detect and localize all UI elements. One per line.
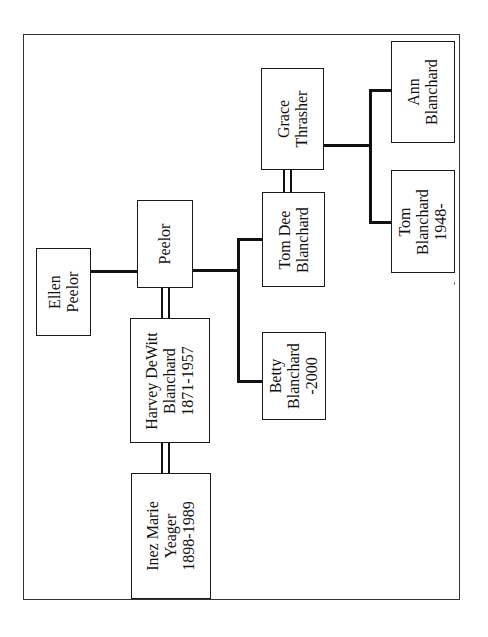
lifespan: -2000	[303, 343, 321, 409]
name-line: Grace	[275, 91, 293, 148]
name-line: Blanchard	[294, 207, 312, 273]
name-line: Blanchard	[423, 59, 441, 125]
person-name: Tom Blanchard 1948-	[396, 189, 450, 255]
person-ellen-peelor: Ellen Peelor	[36, 248, 91, 336]
connector-to-ann	[369, 89, 393, 92]
person-name: Harvey DeWitt Blanchard 1871-1957	[143, 332, 197, 430]
lifespan: 1898-1989	[180, 501, 198, 571]
lifespan: 1948-	[432, 189, 450, 255]
person-inez-marie-yeager: Inez Marie Yeager 1898-1989	[131, 473, 211, 599]
name-line: Peelor	[156, 224, 174, 265]
person-peelor: Peelor	[137, 200, 193, 288]
name-line: Tom Dee	[276, 207, 294, 273]
name-line: Tom	[396, 189, 414, 255]
scan-speck	[454, 282, 455, 285]
connector-ellen-peelor	[90, 270, 137, 273]
person-betty-blanchard: Betty Blanchard -2000	[262, 332, 326, 420]
name-line: Harvey DeWitt	[143, 332, 161, 430]
lifespan: 1871-1957	[179, 332, 197, 430]
person-name: Inez Marie Yeager 1898-1989	[144, 501, 198, 571]
connector-grace-children	[323, 144, 370, 147]
person-name: Grace Thrasher	[275, 91, 311, 148]
person-tom-dee-blanchard: Tom Dee Blanchard	[262, 192, 325, 287]
person-name: Ann Blanchard	[405, 59, 441, 125]
person-name: Betty Blanchard -2000	[267, 343, 321, 409]
person-harvey-dewitt-blanchard: Harvey DeWitt Blanchard 1871-1957	[130, 318, 210, 443]
connector-to-betty	[237, 380, 262, 383]
name-line: Blanchard	[414, 189, 432, 255]
person-name: Peelor	[156, 224, 174, 265]
name-line: Inez Marie	[144, 501, 162, 571]
name-line: Blanchard	[161, 332, 179, 430]
connector-children-vertical	[237, 238, 240, 383]
name-line: Betty	[267, 343, 285, 409]
name-line: Blanchard	[285, 343, 303, 409]
connector-grandchildren-vertical	[369, 89, 372, 223]
person-grace-thrasher: Grace Thrasher	[261, 68, 324, 170]
marriage-line-harvey-inez	[161, 443, 170, 473]
name-line: Ellen	[46, 272, 64, 313]
person-name: Tom Dee Blanchard	[276, 207, 312, 273]
marriage-line-tomdee-grace	[283, 169, 292, 192]
connector-peelor-children	[192, 269, 239, 272]
name-line: Yeager	[162, 501, 180, 571]
name-line: Thrasher	[293, 91, 311, 148]
connector-to-tom	[369, 221, 393, 224]
person-name: Ellen Peelor	[46, 272, 82, 313]
person-tom-blanchard: Tom Blanchard 1948-	[391, 170, 455, 273]
connector-to-tomdee	[237, 238, 262, 241]
name-line: Peelor	[64, 272, 82, 313]
marriage-line-peelor-harvey	[161, 287, 170, 318]
name-line: Ann	[405, 59, 423, 125]
person-ann-blanchard: Ann Blanchard	[391, 41, 455, 143]
